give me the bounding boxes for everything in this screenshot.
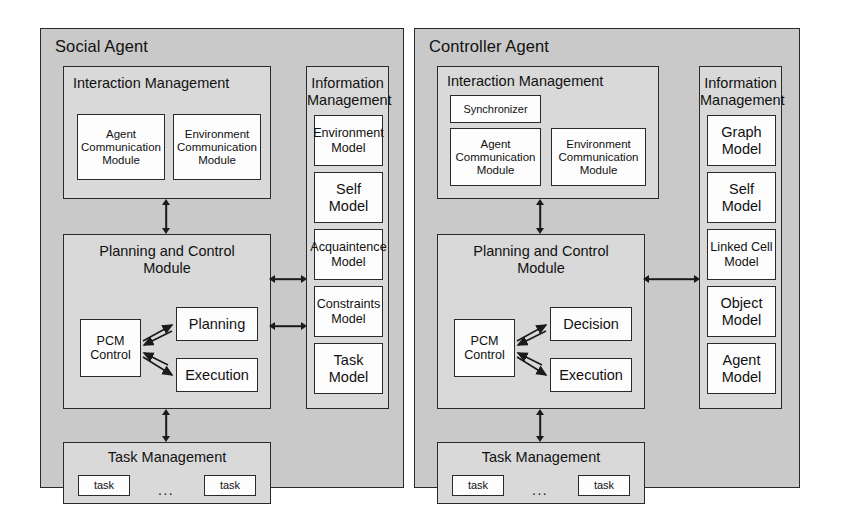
- task-list-ellipsis-controller: ...: [532, 483, 548, 497]
- arrowhead-left: [269, 275, 275, 283]
- model-box-agent-controller[interactable]: Agent Model: [707, 343, 776, 394]
- arrow-pcm-to-im-lower-social: [269, 319, 307, 333]
- information-management-group-controller: Information Management Graph Model Self …: [699, 66, 782, 409]
- task-management-group-controller: Task Management task ... task: [437, 442, 645, 504]
- model-box-self-controller[interactable]: Self Model: [707, 172, 776, 223]
- agent-communication-module-social[interactable]: Agent Communication Module: [77, 114, 165, 180]
- panel-title-controller: Controller Agent: [429, 37, 549, 56]
- arrowhead-up: [536, 199, 544, 205]
- model-box-environment-social[interactable]: Environment Model: [314, 115, 383, 166]
- arrowhead-up: [536, 409, 544, 415]
- arrow-shaft: [274, 325, 302, 327]
- model-box-task-social[interactable]: Task Model: [314, 343, 383, 394]
- information-management-group-social: Information Management Environment Model…: [306, 66, 389, 409]
- planning-and-control-group-social: Planning and Control Module PCM Control …: [63, 234, 271, 409]
- task-list-ellipsis-social: ...: [158, 483, 174, 497]
- agent-panel-controller: Controller Agent Interaction Management …: [414, 28, 800, 488]
- environment-communication-module-social[interactable]: Environment Communication Module: [173, 114, 261, 180]
- environment-communication-module-controller[interactable]: Environment Communication Module: [551, 128, 646, 186]
- arrowhead-up: [162, 199, 170, 205]
- model-box-constraints-social[interactable]: Constraints Model: [314, 286, 383, 337]
- information-management-title-social: Information Management: [307, 75, 388, 109]
- diagram-canvas: Social Agent Interaction Management Agen…: [0, 0, 844, 525]
- arrow-shaft: [274, 278, 302, 280]
- arrow-pcm-to-im-controller: [643, 272, 700, 286]
- task-box-first-controller[interactable]: task: [452, 475, 504, 496]
- arrow-im-to-pcm-controller: [533, 199, 547, 234]
- model-box-object-controller[interactable]: Object Model: [707, 286, 776, 337]
- arrow-shaft: [539, 414, 541, 437]
- model-box-linked-cell-controller[interactable]: Linked Cell Model: [707, 229, 776, 280]
- task-management-title-controller: Task Management: [438, 449, 644, 466]
- model-box-acquaintence-social[interactable]: Acquaintence Model: [314, 229, 383, 280]
- arrow-shaft: [165, 414, 167, 437]
- task-management-title-social: Task Management: [64, 449, 270, 466]
- arrow-pcm-to-task-management-controller: [533, 409, 547, 442]
- synchronizer-box-controller[interactable]: Synchronizer: [450, 95, 541, 123]
- arrow-shaft: [165, 204, 167, 229]
- arrow-pcm-to-task-management-social: [159, 409, 173, 442]
- arrowhead-left: [643, 275, 649, 283]
- interaction-management-title-social: Interaction Management: [73, 75, 229, 91]
- panel-title-social: Social Agent: [55, 37, 148, 56]
- arrow-im-to-pcm-social: [159, 199, 173, 234]
- pcm-internal-connectors-controller: [438, 235, 646, 410]
- arrow-shaft: [539, 204, 541, 229]
- agent-communication-module-controller[interactable]: Agent Communication Module: [450, 128, 541, 186]
- arrow-pcm-to-im-upper-social: [269, 272, 307, 286]
- interaction-management-group-controller: Interaction Management Synchronizer Agen…: [437, 66, 659, 199]
- task-management-group-social: Task Management task ... task: [63, 442, 271, 504]
- agent-panel-social: Social Agent Interaction Management Agen…: [40, 28, 404, 488]
- arrowhead-up: [162, 409, 170, 415]
- information-management-title-controller: Information Management: [700, 75, 781, 109]
- planning-and-control-group-controller: Planning and Control Module PCM Control …: [437, 234, 645, 409]
- arrow-shaft: [648, 278, 695, 280]
- model-box-graph-controller[interactable]: Graph Model: [707, 115, 776, 166]
- task-box-first-social[interactable]: task: [78, 475, 130, 496]
- arrowhead-left: [269, 322, 275, 330]
- interaction-management-title-controller: Interaction Management: [447, 73, 603, 89]
- pcm-internal-connectors-social: [64, 235, 272, 410]
- interaction-management-group-social: Interaction Management Agent Communicati…: [63, 66, 271, 199]
- task-box-last-controller[interactable]: task: [578, 475, 630, 496]
- model-box-self-social[interactable]: Self Model: [314, 172, 383, 223]
- task-box-last-social[interactable]: task: [204, 475, 256, 496]
